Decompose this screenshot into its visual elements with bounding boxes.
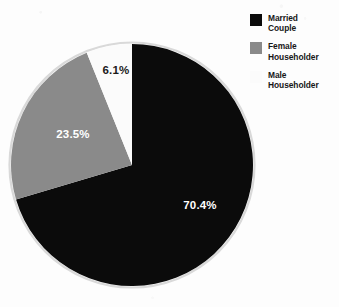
legend-item-married-couple[interactable]: Married Couple bbox=[250, 13, 338, 33]
legend-label-line2: Householder bbox=[268, 52, 319, 62]
chart-page: 70.4% 23.5% 6.1% Married Couple Female H… bbox=[0, 0, 339, 307]
legend-label-married-couple: Married Couple bbox=[268, 13, 298, 33]
chart-legend: Married Couple Female Householder Male H… bbox=[250, 13, 338, 98]
pie-chart: 70.4% 23.5% 6.1% bbox=[8, 41, 256, 291]
legend-swatch-icon-male-householder bbox=[250, 71, 262, 83]
legend-label-line1: Married bbox=[268, 13, 298, 23]
legend-label-female-householder: Female Householder bbox=[268, 41, 319, 61]
legend-swatch-icon-married-couple bbox=[250, 14, 262, 26]
legend-item-female-householder[interactable]: Female Householder bbox=[250, 41, 338, 61]
legend-label-line1: Female bbox=[268, 41, 297, 51]
legend-label-line2: Couple bbox=[268, 23, 298, 33]
legend-swatch-icon-female-householder bbox=[250, 42, 262, 54]
pie-label-married-couple: 70.4% bbox=[183, 199, 217, 211]
legend-item-male-householder[interactable]: Male Householder bbox=[250, 70, 338, 90]
legend-label-line1: Male bbox=[268, 70, 286, 80]
legend-label-line2: Householder bbox=[268, 80, 319, 90]
pie-chart-svg: 70.4% 23.5% 6.1% bbox=[8, 41, 256, 291]
legend-label-male-householder: Male Householder bbox=[268, 70, 319, 90]
pie-label-male-householder: 6.1% bbox=[102, 64, 129, 76]
pie-label-female-householder: 23.5% bbox=[56, 128, 90, 140]
